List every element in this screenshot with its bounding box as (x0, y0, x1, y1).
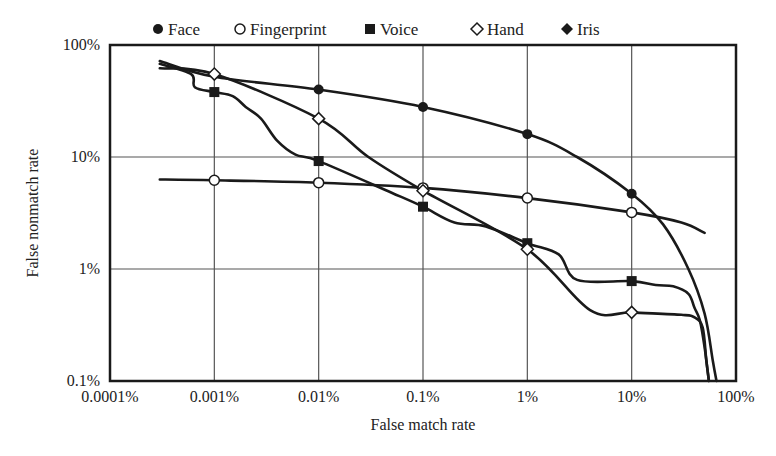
x-tick-label: 0.1% (406, 388, 439, 405)
voice-curve (160, 64, 709, 381)
y-tick-label: 1% (79, 260, 100, 277)
open-diamond-icon (471, 23, 483, 35)
face-curve (160, 61, 717, 381)
legend-label: Fingerprint (250, 20, 327, 39)
legend-item-face: Face (153, 20, 200, 39)
hand-curve (160, 68, 709, 381)
hand-marker (626, 306, 638, 318)
x-tick-label: 1% (517, 388, 538, 405)
fingerprint-marker (209, 175, 219, 185)
legend-item-iris: Iris (561, 20, 600, 39)
det-curve-chart: FaceFingerprintVoiceHandIris 0.0001%0.00… (0, 0, 776, 456)
open-circle-icon (235, 24, 245, 34)
legend-label: Voice (380, 20, 418, 39)
fingerprint-marker (522, 193, 532, 203)
x-axis-title: False match rate (371, 416, 476, 433)
y-tick-label: 10% (71, 148, 100, 165)
series-curves (160, 61, 717, 381)
x-tick-label: 10% (617, 388, 646, 405)
legend-item-voice: Voice (365, 20, 418, 39)
face-marker (418, 102, 428, 112)
filled-diamond-icon (561, 23, 573, 35)
filled-square-icon (365, 24, 375, 34)
voice-marker (314, 156, 324, 166)
legend-item-hand: Hand (471, 20, 524, 39)
x-tick-label: 0.01% (298, 388, 339, 405)
legend-label: Iris (577, 20, 600, 39)
y-tick-label: 100% (63, 36, 100, 53)
legend-label: Hand (487, 20, 524, 39)
voice-marker (418, 202, 428, 212)
voice-marker (627, 276, 637, 286)
y-axis-tick-labels: 0.1%1%10%100% (63, 36, 100, 389)
face-marker (314, 85, 324, 95)
legend-item-fingerprint: Fingerprint (235, 20, 327, 39)
hand-marker (313, 113, 325, 125)
face-marker (627, 189, 637, 199)
x-tick-label: 0.0001% (81, 388, 138, 405)
x-tick-label: 0.001% (190, 388, 239, 405)
fingerprint-marker (627, 207, 637, 217)
x-axis-tick-labels: 0.0001%0.001%0.01%0.1%1%10%100% (81, 388, 754, 405)
y-tick-label: 0.1% (67, 372, 100, 389)
fingerprint-marker (314, 178, 324, 188)
legend: FaceFingerprintVoiceHandIris (153, 20, 600, 39)
voice-marker (209, 87, 219, 97)
face-marker (522, 129, 532, 139)
x-tick-label: 100% (717, 388, 754, 405)
y-axis-title: False nonmatch rate (24, 149, 41, 278)
legend-label: Face (168, 20, 200, 39)
filled-circle-icon (153, 24, 163, 34)
